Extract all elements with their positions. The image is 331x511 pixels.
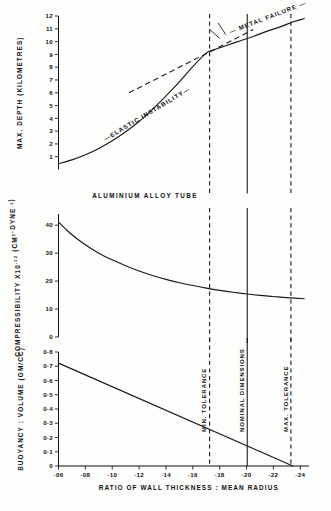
refline-label-min-tolerance: MIN. TOLERANCE [201, 368, 207, 432]
x-tick-label-2: ·10 [107, 471, 117, 478]
y-axis-title-bottom: BUOYANCY : VOLUME (GM/CC) [17, 347, 25, 471]
y-tick-label-top-5: 6 [49, 89, 53, 96]
annotation-material: ALUMINIUM ALLOY TUBE [92, 192, 198, 199]
y-tick-label-top-7: 8 [49, 63, 53, 70]
figure-canvas: 1234567891011121020304000·10·20·30·40·50… [0, 0, 331, 511]
x-tick-label-5: ·16 [188, 471, 198, 478]
y-tick-label-bottom-zero: 0 [49, 462, 53, 469]
y-tick-label-middle-0: 10 [46, 305, 54, 312]
y-tick-label-bottom-7: 0·8 [43, 348, 53, 355]
y-tick-label-middle-zero: 0 [49, 333, 53, 340]
y-tick-label-top-10: 11 [46, 25, 53, 32]
y-tick-label-top-6: 7 [49, 76, 53, 83]
annotation-elastic-instability: —ELASTIC INSTABILITY— [102, 85, 191, 142]
leader-metal-failure-a [210, 29, 220, 38]
series-metal-failure-line [129, 29, 253, 92]
y-tick-label-top-9: 10 [46, 38, 54, 45]
x-tick-label-9: ·24 [295, 471, 305, 478]
technical-chart-svg: 1234567891011121020304000·10·20·30·40·50… [0, 0, 331, 511]
x-tick-label-7: ·20 [242, 471, 252, 478]
x-tick-label-0: ·06 [54, 471, 64, 478]
y-tick-label-bottom-1: 0·2 [43, 434, 53, 441]
y-tick-label-bottom-3: 0·4 [43, 405, 53, 412]
x-tick-label-6: ·18 [215, 471, 225, 478]
y-tick-label-bottom-2: 0·3 [43, 419, 53, 426]
y-axis-title-top: MAX. DEPTH (KILOMETRES) [16, 36, 24, 149]
leader-metal-failure-b [218, 23, 225, 35]
y-tick-label-top-8: 9 [49, 51, 53, 58]
x-tick-label-3: ·12 [134, 471, 144, 478]
y-tick-label-top-4: 5 [49, 102, 53, 109]
y-tick-label-middle-3: 40 [46, 221, 54, 228]
y-tick-label-bottom-0: 0·1 [43, 448, 53, 455]
refline-label-max-tolerance: MAX. TOLERANCE [283, 365, 289, 432]
y-tick-label-middle-2: 30 [46, 249, 54, 256]
series-compressibility-curve [59, 222, 305, 299]
y-tick-label-top-1: 2 [49, 140, 53, 147]
annotation-metal-failure: — METAL FAILURE — [228, 0, 307, 35]
y-tick-label-top-0: 1 [49, 153, 53, 160]
x-tick-label-4: ·14 [161, 471, 171, 478]
y-axis-title-middle: COMPRESSIBILITY X10-12 (CM2·DYNE-1) [7, 198, 21, 356]
y-tick-label-top-2: 3 [49, 127, 53, 134]
y-tick-label-middle-1: 20 [46, 277, 54, 284]
y-tick-label-top-3: 4 [49, 115, 53, 122]
refline-label-nominal-dimensions: NOMINAL DIMENSIONS [239, 348, 245, 432]
y-tick-label-bottom-5: 0·6 [43, 377, 53, 384]
x-axis-title: RATIO OF WALL THICKNESS : MEAN RADIUS [99, 484, 279, 491]
y-tick-label-top-11: 12 [46, 12, 54, 19]
y-tick-label-bottom-4: 0·5 [43, 391, 53, 398]
x-tick-label-8: ·22 [268, 471, 278, 478]
y-tick-label-bottom-6: 0·7 [43, 362, 53, 369]
x-tick-label-1: ·08 [80, 471, 90, 478]
series-buoyancy-volume-line [59, 363, 293, 466]
